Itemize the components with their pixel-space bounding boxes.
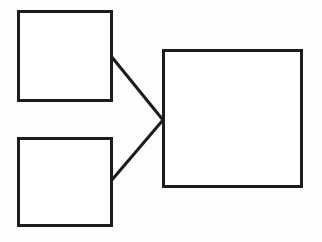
- right-box[interactable]: [163, 50, 301, 186]
- connector-bottom-to-right-line: [111, 120, 163, 181]
- diagram-svg: [0, 0, 322, 242]
- bottom-left-box[interactable]: [18, 138, 111, 225]
- top-left-box[interactable]: [18, 11, 111, 100]
- diagram-canvas: [0, 0, 322, 242]
- connector-top-to-right-line: [111, 56, 163, 120]
